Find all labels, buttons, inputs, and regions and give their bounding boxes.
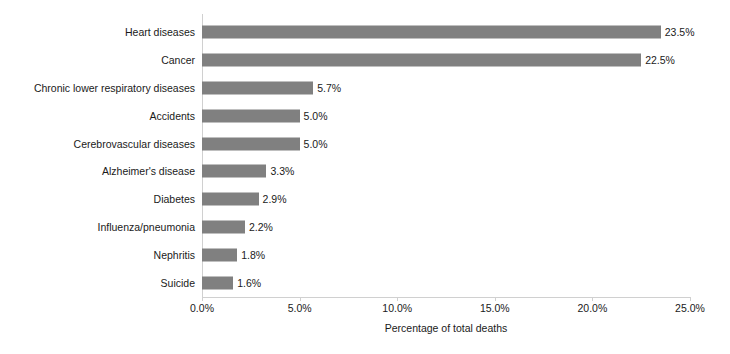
x-axis-title: Percentage of total deaths xyxy=(202,322,690,334)
bar xyxy=(202,193,259,206)
bar-row: Nephritis1.8% xyxy=(202,241,690,269)
bar-row: Cerebrovascular diseases5.0% xyxy=(202,130,690,158)
x-tick-mark xyxy=(202,297,203,301)
bar-value-label: 3.3% xyxy=(270,166,294,177)
bar-row: Heart diseases23.5% xyxy=(202,18,690,46)
bar-value-label: 2.9% xyxy=(263,194,287,205)
category-label: Nephritis xyxy=(154,250,195,261)
bar xyxy=(202,165,266,178)
bar xyxy=(202,81,313,94)
category-label: Influenza/pneumonia xyxy=(98,222,196,233)
category-label: Accidents xyxy=(149,110,195,121)
x-tick-mark xyxy=(397,297,398,301)
bar-row: Suicide1.6% xyxy=(202,269,690,297)
x-tick-label: 15.0% xyxy=(480,302,510,314)
bar xyxy=(202,137,300,150)
bar-row: Alzheimer's disease3.3% xyxy=(202,158,690,186)
bar xyxy=(202,221,245,234)
x-tick-mark xyxy=(690,297,691,301)
x-tick-mark xyxy=(300,297,301,301)
x-tick-label: 25.0% xyxy=(675,302,705,314)
bar xyxy=(202,109,300,122)
category-label: Alzheimer's disease xyxy=(102,166,195,177)
x-tick-label: 0.0% xyxy=(190,302,214,314)
bar-value-label: 5.0% xyxy=(304,110,328,121)
bar-row: Chronic lower respiratory diseases5.7% xyxy=(202,74,690,102)
bar-value-label: 5.7% xyxy=(317,82,341,93)
bar-value-label: 23.5% xyxy=(665,27,695,38)
bar-value-label: 22.5% xyxy=(645,55,675,66)
category-label: Heart diseases xyxy=(125,27,195,38)
bar xyxy=(202,53,641,66)
category-label: Suicide xyxy=(161,278,195,289)
x-tick-label: 10.0% xyxy=(382,302,412,314)
bar-row: Cancer22.5% xyxy=(202,46,690,74)
bar-value-label: 1.8% xyxy=(241,250,265,261)
bar-value-label: 5.0% xyxy=(304,138,328,149)
x-tick-label: 20.0% xyxy=(578,302,608,314)
bar xyxy=(202,277,233,290)
x-axis-line xyxy=(202,297,690,298)
bar-chart: Heart diseases23.5%Cancer22.5%Chronic lo… xyxy=(0,0,730,354)
category-label: Cancer xyxy=(161,55,195,66)
bar-row: Diabetes2.9% xyxy=(202,185,690,213)
bar xyxy=(202,25,661,38)
bar-value-label: 2.2% xyxy=(249,222,273,233)
x-tick-label: 5.0% xyxy=(288,302,312,314)
category-label: Cerebrovascular diseases xyxy=(74,138,195,149)
category-label: Chronic lower respiratory diseases xyxy=(34,82,195,93)
x-tick-mark xyxy=(495,297,496,301)
x-tick-mark xyxy=(592,297,593,301)
category-label: Diabetes xyxy=(154,194,195,205)
bar-row: Influenza/pneumonia2.2% xyxy=(202,213,690,241)
bar-row: Accidents5.0% xyxy=(202,102,690,130)
bar xyxy=(202,249,237,262)
bar-value-label: 1.6% xyxy=(237,278,261,289)
